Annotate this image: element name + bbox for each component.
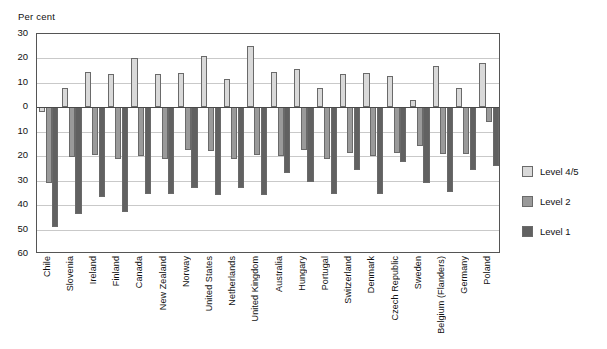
bar [247,46,253,107]
bar [115,107,121,158]
bar-group [408,34,431,252]
bar [52,107,58,227]
x-axis-category-label: Portugal [321,256,330,290]
bar-group [37,34,60,252]
bar [108,74,114,107]
bar-group [153,34,176,252]
x-axis-category-label: United Kingdom [251,256,260,321]
bar [261,107,267,195]
bar [145,107,151,194]
bar [85,72,91,107]
x-axis-category-label: Hungary [298,256,307,291]
bar [486,107,492,122]
x-axis-category-label: Poland [483,256,492,285]
x-axis-category-label: Finland [112,256,121,286]
x-axis-category-label: Norway [182,256,191,287]
bar [331,107,337,194]
bar-group [362,34,385,252]
bar [131,58,137,107]
legend-swatch [522,166,533,177]
bar-group [431,34,454,252]
zero-line [37,107,499,108]
bar-group [269,34,292,252]
bar [99,107,105,196]
bar [138,107,144,156]
bar [215,107,221,195]
bar-group [315,34,338,252]
bar [301,107,307,150]
bar [238,107,244,188]
bar [307,107,313,182]
bar [433,66,439,108]
bar [254,107,260,155]
y-axis-tick-label: 10 [2,126,28,136]
bar [324,107,330,158]
bar [456,88,462,108]
bar [92,107,98,155]
y-axis-tick-label: 10 [2,77,28,87]
x-axis-category-label: Ireland [89,256,98,284]
bar [417,107,423,146]
x-axis-category-label: Czech Republic [391,256,400,320]
legend-swatch [522,196,533,207]
bar [447,107,453,191]
bar [410,100,416,107]
cropped-title-text [60,0,480,5]
x-axis-category-labels: ChileSloveniaIrelandFinlandCanadaNew Zea… [36,256,500,348]
bar-group [130,34,153,252]
bar-group [176,34,199,252]
bar-group [83,34,106,252]
x-axis-category-label: Netherlands [228,256,237,306]
legend-item: Level 1 [522,226,579,237]
bar [155,74,161,107]
bar [185,107,191,150]
bar-group [339,34,362,252]
bar [340,74,346,107]
y-axis-tick-label: 30 [2,175,28,185]
y-axis-tick-label: 20 [2,150,28,160]
bar-group [223,34,246,252]
x-axis-category-label: New Zealand [159,256,168,310]
bar [178,73,184,107]
bar-group [246,34,269,252]
bar [278,107,284,156]
y-axis-tick-label: 60 [2,248,28,258]
y-axis-unit-label: Per cent [18,11,55,22]
y-axis-tick-label: 30 [2,28,28,38]
bar [463,107,469,153]
bar [75,107,81,213]
bar [377,107,383,194]
x-axis-category-label: Canada [135,256,144,288]
bar [394,107,400,152]
y-axis-tick-label: 40 [2,199,28,209]
x-axis-category-label: United States [205,256,214,311]
legend-item: Level 2 [522,196,579,207]
legend-item: Level 4/5 [522,166,579,177]
bar [162,107,168,158]
legend-label: Level 2 [540,196,571,207]
bar [284,107,290,173]
bar [400,107,406,162]
x-axis-category-label: Denmark [367,256,376,293]
bar-group [107,34,130,252]
legend-swatch [522,226,533,237]
bar-group [60,34,83,252]
legend-label: Level 4/5 [540,166,579,177]
bar [191,107,197,188]
x-axis-category-label: Switzerland [344,256,353,304]
bar-groups [37,34,499,252]
chart-legend: Level 4/5Level 2Level 1 [522,166,579,256]
bar [470,107,476,169]
bar-group [199,34,222,252]
y-axis-tick-label: 0 [2,101,28,111]
bar [46,107,52,183]
x-axis-category-label: Chile [43,256,52,277]
bar [423,107,429,183]
bar [224,79,230,107]
x-axis-category-label: Sweden [414,256,423,289]
bar-group [455,34,478,252]
bar [168,107,174,194]
bar [479,63,485,107]
y-axis-tick-label: 50 [2,224,28,234]
bar [62,88,68,108]
